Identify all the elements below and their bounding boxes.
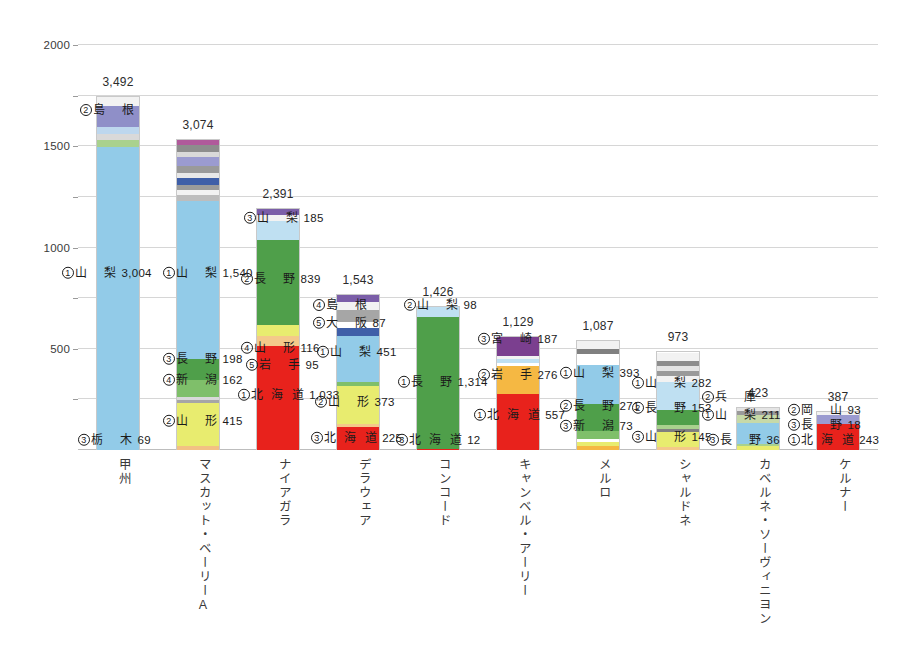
bar-segment [177, 201, 219, 360]
prefecture-name: 長 野 [645, 401, 689, 415]
prefecture-name: 新 潟 [176, 373, 220, 387]
segment-value: 73 [620, 420, 633, 432]
prefecture-name: 山 形 [645, 430, 689, 444]
y-axis-tick-label: 2000 [44, 39, 70, 51]
prefecture-name: 北 海 道 [409, 433, 464, 447]
bar-segment [417, 449, 459, 450]
prefecture-name: 新 潟 [573, 419, 617, 433]
segment-value: 95 [306, 359, 319, 371]
rank-badge: 1 [62, 267, 74, 279]
rank-badge: 1 [474, 409, 486, 421]
rank-badge: 1 [632, 377, 644, 389]
prefecture-name: 山 梨 [573, 366, 617, 380]
prefecture-name: 栃 木 [91, 433, 135, 447]
bar-total-label: 2,391 [262, 187, 293, 201]
bar-column[interactable] [256, 208, 300, 450]
bar-segment [577, 354, 619, 365]
prefecture-name: 山 形 [328, 395, 372, 409]
segment-callout-label: 1山 梨451 [317, 346, 397, 359]
bar-total-label: 1,543 [342, 273, 373, 287]
segment-callout-label: 2山 形415 [163, 415, 243, 428]
bar-segment [497, 394, 539, 450]
bar-segment [737, 446, 779, 450]
x-axis-category-label: マスカット・ベーリーA [187, 458, 209, 613]
prefecture-name: 岡 山 [801, 403, 845, 417]
prefecture-name: 宮 崎 [491, 332, 535, 346]
segment-callout-label: 3山 梨185 [244, 212, 324, 225]
segment-callout-label: 1山 梨282 [632, 377, 712, 390]
segment-value: 93 [848, 404, 861, 416]
bar-segment [177, 157, 219, 166]
rank-badge: 2 [241, 273, 253, 285]
segment-callout-label: 1長 野1,314 [398, 376, 488, 389]
segment-value: 839 [301, 273, 321, 285]
segment-value: 87 [373, 317, 386, 329]
rank-badge: 5 [246, 359, 258, 371]
rank-badge: 3 [478, 333, 490, 345]
prefecture-name: 山 梨 [645, 376, 689, 390]
segment-callout-label: 3北 海 道12 [396, 434, 481, 447]
prefecture-name: 山 梨 [176, 266, 220, 280]
rank-badge: 3 [632, 431, 644, 443]
rank-badge: 1 [317, 346, 329, 358]
bar-total-label: 973 [668, 330, 689, 344]
segment-callout-label: 1山 梨211 [702, 409, 781, 422]
rank-badge: 2 [560, 400, 572, 412]
bar-segment [97, 127, 139, 134]
rank-badge: 3 [788, 419, 800, 431]
rank-badge: 3 [560, 420, 572, 432]
bar-column[interactable] [496, 336, 540, 450]
rank-badge: 1 [163, 267, 175, 279]
bar-column[interactable] [176, 139, 220, 450]
gridline [78, 44, 878, 45]
bar-segment [337, 336, 379, 381]
segment-value: 282 [692, 377, 712, 389]
segment-callout-label: 3新 潟73 [560, 420, 633, 433]
rank-badge: 2 [632, 402, 644, 414]
bar-segment [577, 341, 619, 349]
segment-callout-label: 2岩 手276 [478, 369, 558, 382]
x-axis-category-label: カベルネ・ソーヴィニヨン [747, 458, 769, 626]
segment-value: 187 [538, 333, 558, 345]
rank-badge: 2 [702, 391, 714, 403]
segment-value: 18 [848, 419, 861, 431]
prefecture-name: 山 形 [254, 341, 298, 355]
x-axis-category-label: キャンベル・アーリー [507, 458, 529, 598]
x-axis-category-label: ケルナー [827, 458, 849, 514]
segment-value: 98 [464, 299, 477, 311]
segment-value: 36 [767, 434, 780, 446]
segment-value: 243 [859, 434, 879, 446]
segment-callout-label: 2島 根 [80, 104, 137, 116]
y-axis-tick-mark [73, 45, 78, 46]
segment-callout-label: 3長 野36 [707, 434, 780, 447]
x-axis-category-label: シャルドネ [667, 458, 689, 528]
rank-badge: 5 [313, 317, 325, 329]
bar-column[interactable] [576, 340, 620, 450]
prefecture-name: 北 海 道 [801, 433, 856, 447]
segment-callout-label: 5岩 手95 [246, 359, 319, 372]
bar-segment [577, 446, 619, 450]
segment-callout-label: 2岡 山93 [788, 404, 861, 417]
rank-badge: 4 [241, 342, 253, 354]
prefecture-name: 島 根 [93, 103, 137, 117]
segment-value: 185 [304, 212, 324, 224]
prefecture-name: 北 海 道 [251, 388, 306, 402]
prefecture-name: 兵 庫 [715, 390, 759, 404]
segment-callout-label: 1山 梨1,540 [163, 267, 253, 280]
y-axis-tick-mark [73, 349, 78, 350]
y-axis-tick-mark [73, 96, 78, 97]
prefecture-name: 長 野 [176, 352, 220, 366]
bar-total-label: 1,426 [422, 285, 453, 299]
segment-value: 69 [138, 434, 151, 446]
segment-callout-label: 4島 根 [313, 299, 370, 311]
prefecture-name: 岩 手 [259, 358, 303, 372]
segment-callout-label: 2長 野152 [632, 402, 712, 415]
segment-value: 451 [377, 346, 397, 358]
segment-value: 198 [223, 353, 243, 365]
rank-badge: 2 [315, 396, 327, 408]
segment-value: 211 [762, 409, 781, 421]
prefecture-name: 大 阪 [326, 316, 370, 330]
rank-badge: 3 [163, 353, 175, 365]
rank-badge: 2 [478, 369, 490, 381]
x-axis-category-label: ナイアガラ [267, 458, 289, 528]
